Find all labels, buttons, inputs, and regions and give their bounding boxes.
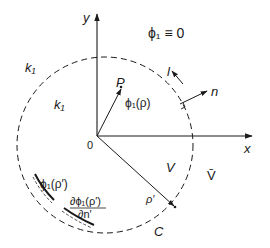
origin-label: 0 bbox=[87, 139, 93, 151]
exterior-v-bar-label: V̄ bbox=[207, 168, 216, 183]
position-vector-p bbox=[97, 86, 122, 136]
field-at-point-label: ϕ₁(ρ) bbox=[125, 96, 151, 110]
boundary-vector-rho-prime bbox=[97, 136, 176, 208]
normal-derivative-denominator: ∂n′ bbox=[78, 208, 92, 220]
boundary-condition-label: ϕ₁ ≡ 0 bbox=[148, 25, 185, 41]
tangent-l-label: l bbox=[167, 64, 171, 79]
inner-region-k-label: k₁ bbox=[54, 97, 65, 112]
x-axis-label: x bbox=[243, 141, 251, 156]
contour-c bbox=[17, 57, 193, 233]
normal-derivative-numerator: ∂ϕ₁(ρ′) bbox=[70, 195, 101, 207]
contour-c-label: C bbox=[154, 224, 164, 239]
outer-region-k-label: k₁ bbox=[25, 60, 36, 75]
point-p-label: P bbox=[116, 75, 125, 90]
rho-prime-label: ρ′ bbox=[145, 193, 155, 205]
diagram-figure: y x 0 ϕ₁ ≡ 0 k₁ k₁ P ϕ₁(ρ) l n V V̄ ρ′ C… bbox=[0, 0, 270, 248]
y-axis-label: y bbox=[82, 10, 91, 25]
normal-n-label: n bbox=[211, 84, 218, 99]
boundary-value-label: ϕ₁(ρ′) bbox=[40, 177, 68, 191]
tangent-arrow-l bbox=[172, 71, 183, 84]
interior-v-label: V bbox=[166, 160, 176, 175]
